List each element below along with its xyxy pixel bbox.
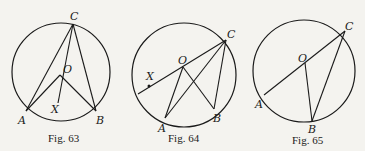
label-c: C: [227, 28, 236, 41]
label-o: O: [63, 63, 72, 76]
figures-canvas: C O X A B Fig. 63 C O X A B Fig. 64: [0, 0, 365, 151]
figure-65: C O A B Fig. 65: [253, 20, 355, 146]
label-b: B: [95, 114, 104, 127]
label-a: A: [157, 122, 166, 135]
label-c: C: [345, 20, 354, 33]
radius-ob: [183, 67, 214, 109]
point-x: [148, 85, 151, 88]
figure-64: C O X A B Fig. 64: [132, 23, 236, 144]
radius-ob: [60, 75, 96, 111]
chord-cb: [73, 24, 96, 111]
caption: Fig. 63: [48, 132, 80, 144]
label-o: O: [298, 52, 307, 65]
label-x: X: [145, 70, 155, 83]
figure-63: C O X A B Fig. 63: [12, 10, 110, 144]
label-b: B: [212, 112, 221, 125]
radius-oa: [165, 67, 183, 118]
label-c: C: [70, 10, 79, 23]
diameter-cd: [138, 40, 226, 94]
label-o: O: [178, 54, 187, 67]
radius-ob: [305, 63, 312, 121]
chord-cb: [214, 40, 226, 109]
caption: Fig. 64: [168, 132, 200, 144]
label-a: A: [17, 114, 26, 127]
geometry-figures: C O X A B Fig. 63 C O X A B Fig. 64: [0, 0, 365, 151]
label-x: X: [50, 103, 60, 116]
chord-ca: [165, 40, 226, 118]
label-a: A: [254, 98, 263, 111]
caption: Fig. 65: [292, 134, 324, 146]
